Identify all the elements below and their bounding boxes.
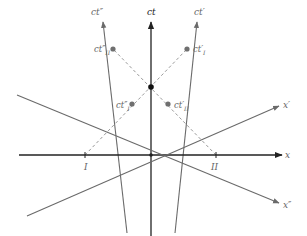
axis-x-prime xyxy=(27,106,279,216)
event-label-ct-prime-II: ct′II xyxy=(174,100,189,112)
tick-label-I: I xyxy=(83,162,88,172)
event-center-event xyxy=(148,84,154,90)
dashed-line-2 xyxy=(113,49,216,155)
event-label-ct-double-prime-I: ct″I xyxy=(116,100,130,112)
tick-label-II: II xyxy=(210,162,219,172)
event-ct-prime-II xyxy=(165,101,170,106)
event-ct-double-prime-I xyxy=(129,101,134,106)
events xyxy=(110,46,189,106)
axis-label-ct-prime: ct′ xyxy=(194,7,205,17)
axis-label-ct-double-prime: ct″ xyxy=(91,7,104,17)
event-label-ct-double-prime-II: ct″II xyxy=(94,44,111,56)
axis-x-double-prime xyxy=(17,95,279,203)
event-label-ct-prime-I: ct′I xyxy=(193,44,206,56)
axis-label-x-prime: x′ xyxy=(283,100,290,110)
labels: ctct″ct′xx′x″IIIct″IIct′Ict″Ict′II xyxy=(83,7,292,210)
axis-label-x-double-prime: x″ xyxy=(283,200,292,210)
axis-label-x: x xyxy=(285,150,290,160)
origin-point xyxy=(149,153,153,157)
axes xyxy=(17,22,282,236)
event-ct-prime-I xyxy=(184,46,189,51)
event-ct-double-prime-II xyxy=(110,46,115,51)
axis-label-ct: ct xyxy=(147,7,156,17)
dashed-line-1 xyxy=(85,49,187,155)
spacetime-diagram: ctct″ct′xx′x″IIIct″IIct′Ict″Ict′II xyxy=(0,0,307,236)
